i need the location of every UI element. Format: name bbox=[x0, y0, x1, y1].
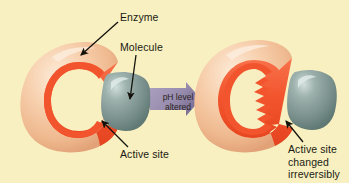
figure-frame-bottom bbox=[0, 183, 358, 193]
label-enzyme: Enzyme bbox=[120, 11, 159, 24]
label-active-site-left: Active site bbox=[120, 148, 169, 161]
molecule-right bbox=[287, 70, 337, 130]
label-molecule: Molecule bbox=[120, 41, 163, 54]
figure-frame-right bbox=[349, 0, 358, 193]
enzyme-ph-diagram: Enzyme Molecule Active site Active site … bbox=[0, 0, 358, 193]
label-ph-level-altered: pH level altered bbox=[154, 92, 202, 112]
molecule-left bbox=[101, 72, 151, 131]
label-active-site-changed-irreversibly: Active site changed irreversibly bbox=[288, 143, 340, 181]
